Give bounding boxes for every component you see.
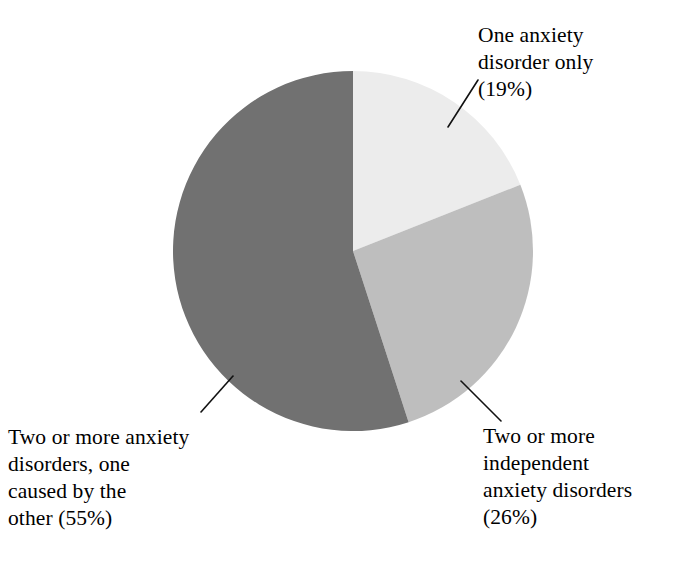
pie-slice-group	[173, 71, 533, 431]
leader-line-two-or-more-caused	[201, 376, 233, 412]
leader-line-two-or-more-independent	[461, 381, 501, 421]
slice-label-two-or-more-one-caused-by-other: Two or more anxiety disorders, one cause…	[8, 424, 189, 532]
slice-label-two-or-more-independent: Two or more independent anxiety disorder…	[483, 423, 632, 531]
pie-chart-figure: One anxiety disorder only (19%) Two or m…	[0, 0, 681, 563]
slice-label-one-anxiety-disorder-only: One anxiety disorder only (19%)	[478, 22, 593, 103]
